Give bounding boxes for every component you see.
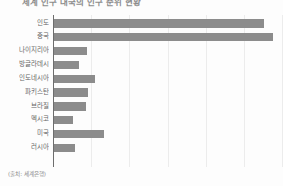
- bar-row: [53, 30, 282, 44]
- category-label-미국: 미국: [37, 127, 49, 141]
- bar-방글라데시: [53, 61, 79, 69]
- bar-브라질: [53, 102, 86, 110]
- bar-chart-figure: 세계 인구 대국의 인구 순위 현황 인도중국나이지리아방글라데시인도네시아파키…: [0, 0, 283, 186]
- bar-row: [53, 17, 282, 31]
- category-label-방글라데시: 방글라데시: [19, 58, 49, 72]
- bar-파키스탄: [53, 88, 88, 96]
- bar-미국: [53, 130, 104, 138]
- category-label-파키스탄: 파키스탄: [25, 86, 49, 100]
- category-label-러시아: 러시아: [31, 141, 49, 155]
- category-labels: 인도중국나이지리아방글라데시인도네시아파키스탄브라질멕시코미국러시아: [0, 15, 52, 167]
- bar-row: [53, 113, 282, 127]
- source-note: (출처: 세계은행): [8, 170, 46, 178]
- bar-나이지리아: [53, 47, 87, 55]
- bar-멕시코: [53, 116, 73, 124]
- category-label-멕시코: 멕시코: [31, 113, 49, 127]
- category-label-인도: 인도: [37, 17, 49, 31]
- bar-러시아: [53, 144, 75, 152]
- category-label-브라질: 브라질: [31, 100, 49, 114]
- gridline: [282, 15, 283, 167]
- y-axis-line: [53, 15, 54, 167]
- bar-row: [53, 44, 282, 58]
- bar-인도: [53, 19, 264, 27]
- bar-row: [53, 58, 282, 72]
- bar-row: [53, 127, 282, 141]
- bar-row: [53, 141, 282, 155]
- bar-중국: [53, 33, 273, 41]
- bar-row: [53, 86, 282, 100]
- category-label-나이지리아: 나이지리아: [19, 44, 49, 58]
- bar-row: [53, 72, 282, 86]
- bars-layer: [53, 15, 282, 167]
- chart-title: 세계 인구 대국의 인구 순위 현황: [22, 0, 141, 7]
- category-label-인도네시아: 인도네시아: [19, 72, 49, 86]
- plot-area: [53, 15, 282, 167]
- bar-row: [53, 100, 282, 114]
- category-label-중국: 중국: [37, 30, 49, 44]
- bar-인도네시아: [53, 75, 95, 83]
